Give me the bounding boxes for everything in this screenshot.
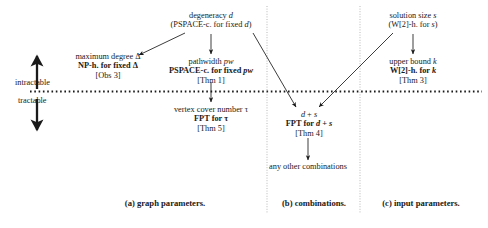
node-degeneracy-line1: degeneracy d xyxy=(156,11,266,20)
node-pathwidth: pathwidth pw PSPACE-c. for fixed pw [Thm… xyxy=(152,57,270,85)
node-any-other-line1: any xyxy=(269,162,281,171)
node-d-plus-s: d + s FPT for d + s [Thm 4] xyxy=(269,110,349,138)
intractable-label: intractable xyxy=(15,78,50,87)
node-upper-bound-line3: [Thm 3] xyxy=(366,76,460,85)
node-any-other-line2: other combinations xyxy=(283,162,347,171)
caption-b: (b) combinations. xyxy=(272,198,356,208)
node-maximum-degree-line3: [Obs 3] xyxy=(52,71,164,80)
node-vertex-cover-line2: FPT for τ xyxy=(152,114,270,123)
node-d-plus-s-line1: d + s xyxy=(269,110,349,119)
caption-c: (c) input parameters. xyxy=(366,198,476,208)
node-pathwidth-line2: PSPACE-c. for fixed pw xyxy=(152,66,270,75)
tractable-label: tractable xyxy=(18,96,47,105)
node-d-plus-s-line3: [Thm 4] xyxy=(269,129,349,138)
node-pathwidth-line3: [Thm 1] xyxy=(152,76,270,85)
node-maximum-degree-line1: maximum degree Δ xyxy=(52,52,164,61)
node-d-plus-s-line2: FPT for d + s xyxy=(269,119,349,128)
node-solution-size-line2: (W[2]-h. for s) xyxy=(364,20,462,29)
node-degeneracy-line2: (PSPACE-c. for fixed d) xyxy=(156,20,266,29)
node-vertex-cover-number: vertex cover number τ FPT for τ [Thm 5] xyxy=(152,105,270,133)
parameter-hierarchy-figure: intractable tractable maximum degree Δ N… xyxy=(0,0,488,228)
node-solution-size: solution size s (W[2]-h. for s) xyxy=(364,11,462,30)
node-pathwidth-line1: pathwidth pw xyxy=(152,57,270,66)
node-vertex-cover-line3: [Thm 5] xyxy=(152,124,270,133)
node-degeneracy: degeneracy d (PSPACE-c. for fixed d) xyxy=(156,11,266,30)
node-upper-bound-line1: upper bound k xyxy=(366,57,460,66)
caption-a: (a) graph parameters. xyxy=(70,198,260,208)
node-upper-bound-line2: W[2]-h. for k xyxy=(366,66,460,75)
node-maximum-degree-line2: NP-h. for fixed Δ xyxy=(52,61,164,70)
node-any-other-combinations: any other combinations xyxy=(258,162,358,172)
node-vertex-cover-line1: vertex cover number τ xyxy=(152,105,270,114)
node-maximum-degree: maximum degree Δ NP-h. for fixed Δ [Obs … xyxy=(52,52,164,80)
node-upper-bound: upper bound k W[2]-h. for k [Thm 3] xyxy=(366,57,460,85)
node-solution-size-line1: solution size s xyxy=(364,11,462,20)
